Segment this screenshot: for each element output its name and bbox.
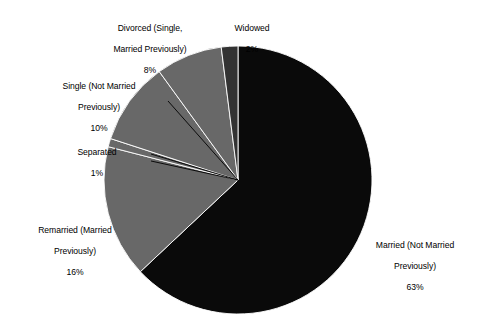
pie-label-single-name-line2: Previously) (26, 102, 172, 112)
pie-label-married-name-line1: Married (Not Married (352, 240, 478, 250)
pie-chart: Divorced (Single, Married Previously) 8%… (0, 0, 478, 333)
pie-label-remarried-name-line1: Remarried (Married (5, 225, 145, 235)
pie-label-single-value: 10% (26, 123, 172, 133)
pie-label-separated-name-line1: Separated (44, 147, 150, 157)
pie-label-widowed-name-line1: Widowed (204, 23, 300, 33)
pie-label-single: Single (Not Married Previously) 10% (26, 71, 172, 144)
pie-label-separated-value: 1% (44, 168, 150, 178)
pie-label-remarried-name-line2: Previously) (5, 246, 145, 256)
pie-label-remarried: Remarried (Married Previously) 16% (5, 215, 145, 288)
pie-label-divorced-name-line2: Married Previously) (82, 44, 218, 54)
pie-label-divorced-name-line1: Divorced (Single, (82, 23, 218, 33)
pie-label-widowed-value: 2% (204, 44, 300, 54)
pie-label-married-value: 63% (352, 282, 478, 292)
pie-label-single-name-line1: Single (Not Married (26, 81, 172, 91)
pie-label-widowed: Widowed 2% (204, 13, 300, 65)
pie-label-separated: Separated 1% (44, 137, 150, 189)
pie-label-remarried-value: 16% (5, 267, 145, 277)
pie-label-married-name-line2: Previously) (352, 261, 478, 271)
pie-label-married: Married (Not Married Previously) 63% (352, 230, 478, 303)
